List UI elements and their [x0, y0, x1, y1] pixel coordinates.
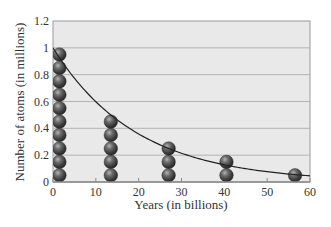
atom-sphere	[53, 115, 67, 129]
atom-sphere	[53, 128, 67, 142]
atom-sphere	[53, 75, 67, 89]
atom-sphere	[162, 155, 176, 169]
y-tick-label: 0	[43, 175, 49, 189]
atom-sphere	[53, 142, 67, 156]
y-tick-label: 1.2	[34, 14, 49, 28]
x-axis-label: Years (in billions)	[134, 197, 227, 212]
atom-sphere	[104, 142, 118, 156]
y-tick-label: 0.2	[34, 148, 49, 162]
x-tick-label: 10	[90, 185, 102, 199]
x-tick-label: 60	[304, 185, 316, 199]
atom-sphere	[104, 128, 118, 142]
atom-sphere	[104, 168, 118, 182]
y-axis-label: Number of atoms (in millions)	[12, 23, 27, 182]
atom-sphere	[53, 101, 67, 115]
y-tick-label: 1	[43, 41, 49, 55]
y-tick-label: 0.8	[34, 68, 49, 82]
y-axis-ticks: 00.20.40.60.811.2	[34, 14, 49, 189]
atom-sphere	[162, 168, 176, 182]
atom-sphere	[53, 168, 67, 182]
atom-sphere	[104, 115, 118, 129]
atom-sphere	[53, 61, 67, 75]
atom-sphere	[53, 88, 67, 102]
atom-sphere	[104, 155, 118, 169]
x-tick-label: 50	[261, 185, 273, 199]
decay-chart: 0102030405060 00.20.40.60.811.2 Years (i…	[0, 0, 331, 227]
x-tick-label: 0	[50, 185, 56, 199]
atom-sphere	[220, 168, 234, 182]
y-tick-label: 0.6	[34, 95, 49, 109]
y-tick-label: 0.4	[34, 121, 49, 135]
atom-sphere	[53, 155, 67, 169]
